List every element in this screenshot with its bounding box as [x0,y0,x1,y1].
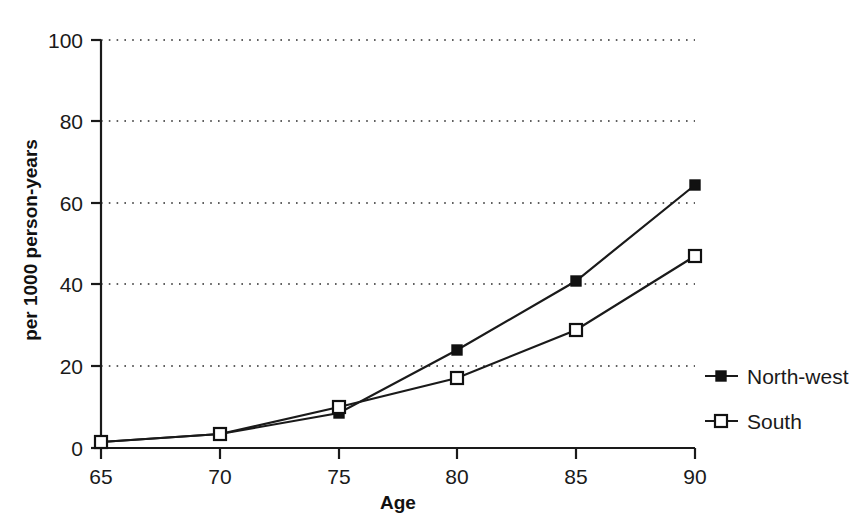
data-point-south-75 [333,401,345,413]
y-tick-label-0: 0 [71,437,83,460]
x-tick-label-70: 70 [208,465,231,488]
data-point-south-90 [689,250,701,262]
x-tick-label-75: 75 [327,465,350,488]
data-point-south-70 [214,428,226,440]
x-tick-label-85: 85 [564,465,587,488]
line-chart: 100 80 60 40 20 0 65 70 75 80 85 90 Age … [0,0,866,529]
legend-label-north-west: North-west [747,365,849,388]
y-axis-title: per 1000 person-years [20,139,41,341]
data-point-north-west-85 [571,276,581,286]
y-tick-label-20: 20 [60,355,83,378]
chart-background [0,0,866,529]
legend-marker-open-square-icon [715,415,727,427]
y-tick-label-80: 80 [60,110,83,133]
y-tick-label-100: 100 [48,29,83,52]
data-point-south-65 [95,436,107,448]
x-axis-title: Age [380,492,416,513]
y-tick-label-40: 40 [60,273,83,296]
x-tick-label-65: 65 [89,465,112,488]
y-tick-label-60: 60 [60,192,83,215]
data-point-south-80 [451,372,463,384]
legend-marker-filled-square-icon [716,371,726,381]
x-tick-label-90: 90 [683,465,706,488]
data-point-north-west-80 [452,345,462,355]
x-tick-label-80: 80 [445,465,468,488]
legend-label-south: South [747,410,802,433]
chart-figure: 100 80 60 40 20 0 65 70 75 80 85 90 Age … [0,0,866,529]
data-point-north-west-90 [690,180,700,190]
data-point-south-85 [570,324,582,336]
